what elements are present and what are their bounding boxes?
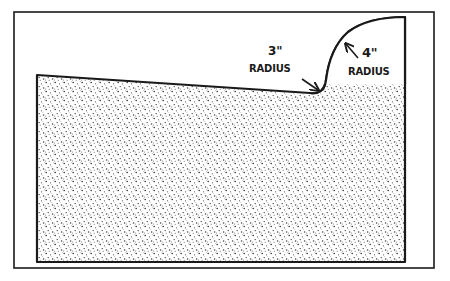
stippled-block [37, 75, 405, 262]
radius-3-value: 3" [268, 44, 282, 58]
arrow-radius-3-icon [302, 79, 318, 90]
radius-4-label: RADIUS [348, 66, 390, 77]
profile-diagram [0, 0, 450, 281]
radius-4-value: 4" [362, 45, 377, 60]
radius-3-label: RADIUS [249, 63, 291, 74]
